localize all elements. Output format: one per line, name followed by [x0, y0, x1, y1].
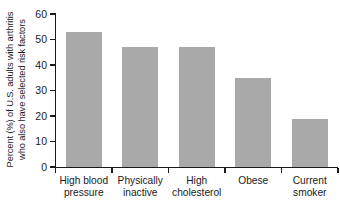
- bar: [235, 78, 271, 167]
- x-axis-label: Currentsmoker: [282, 175, 339, 200]
- bars-layer: [0, 0, 340, 167]
- x-axis-label: Physicallyinactive: [112, 175, 169, 200]
- x-axis-label-line: smoker: [282, 187, 339, 199]
- x-axis-tick: [111, 168, 112, 173]
- x-axis-tick: [281, 168, 282, 173]
- x-axis-label: Highcholesterol: [169, 175, 226, 200]
- x-axis-label-line: inactive: [112, 187, 169, 199]
- bar: [66, 32, 102, 167]
- bar: [122, 47, 158, 167]
- x-axis-label-line: Physically: [112, 175, 169, 187]
- bar: [292, 119, 328, 167]
- x-axis-label-line: High: [169, 175, 226, 187]
- x-axis-label-line: pressure: [56, 187, 113, 199]
- x-axis-tick: [224, 168, 225, 173]
- x-axis-label-line: cholesterol: [169, 187, 226, 199]
- x-axis-label: Obese: [225, 175, 282, 187]
- x-axis-label-line: Obese: [225, 175, 282, 187]
- bar-chart: Percent (%) of U.S. adults with arthriti…: [0, 0, 340, 213]
- bar: [179, 47, 215, 167]
- x-axis-tick: [55, 168, 56, 173]
- x-axis-label: High bloodpressure: [56, 175, 113, 200]
- x-axis-label-line: Current: [282, 175, 339, 187]
- x-axis-line: [55, 167, 338, 168]
- x-axis-tick: [337, 168, 338, 173]
- x-axis-label-line: High blood: [56, 175, 113, 187]
- x-axis-tick: [168, 168, 169, 173]
